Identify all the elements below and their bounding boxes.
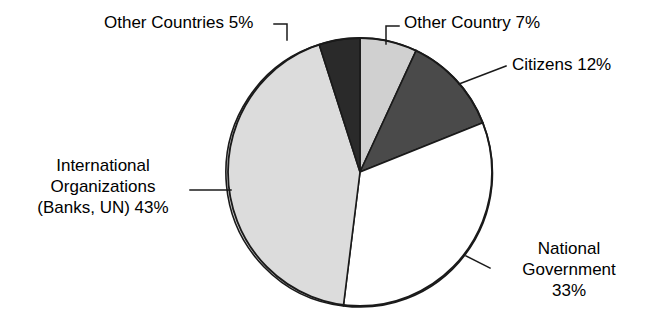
leader-line-citizens (459, 66, 506, 84)
pie-label-national-government: National Government 33% (494, 238, 644, 301)
pie-label-national-government-line-3: 33% (494, 280, 644, 301)
pie-label-other-countries-text: Other Countries 5% (104, 13, 253, 32)
pie-label-international-organizations-line-1: International (18, 155, 188, 176)
pie-label-international-organizations-line-2: Organizations (18, 176, 188, 197)
pie-label-other-country-text: Other Country 7% (404, 13, 540, 32)
pie-label-citizens: Citizens 12% (512, 54, 611, 75)
pie-label-national-government-line-1: National (494, 238, 644, 259)
pie-label-citizens-text: Citizens 12% (512, 55, 611, 74)
pie-label-other-country: Other Country 7% (404, 12, 540, 33)
pie-label-other-countries: Other Countries 5% (104, 12, 253, 33)
pie-label-international-organizations-line-3: (Banks, UN) 43% (18, 197, 188, 218)
pie-label-international-organizations: International Organizations (Banks, UN) … (18, 155, 188, 218)
pie-label-national-government-line-2: Government (494, 259, 644, 280)
leader-line-other-countries (274, 24, 287, 40)
pie-chart-figure: Other Countries 5% Other Country 7% Citi… (0, 0, 664, 331)
leader-line-national-government (466, 256, 490, 268)
